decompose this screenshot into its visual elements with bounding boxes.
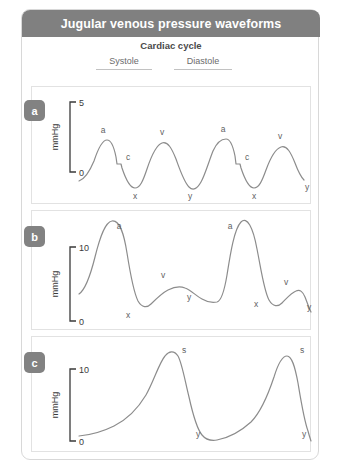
wave-label-a2: a (228, 221, 233, 231)
waveform-panel-c: 10 0 mmHg s y s y (31, 336, 311, 452)
panel-badge-a: a (24, 100, 45, 121)
waveform-chart-b: 10 0 mmHg a x v y a x v y (32, 211, 312, 331)
wave-label-x1: x (133, 191, 138, 201)
y-axis-label-c: mmHg (50, 392, 60, 419)
y-axis-label-b: mmHg (50, 271, 60, 298)
waveform-curve-a (79, 139, 304, 189)
wave-label-a2: a (221, 124, 226, 134)
panel-badge-b: b (24, 226, 45, 247)
y-tick-max-b: 10 (79, 243, 89, 253)
figure-title-bar: Jugular venous pressure waveforms (22, 10, 320, 37)
wave-label-a1: a (117, 221, 122, 231)
wave-label-a1: a (101, 125, 106, 135)
wave-label-y1: y (188, 191, 193, 201)
y-tick-min-a: 0 (79, 168, 84, 178)
cardiac-cycle-header: Cardiac cycle Systole Diastole (22, 40, 320, 84)
phase-label-diastole: Diastole (172, 56, 234, 66)
waveform-panel-a: 5 0 mmHg a c v x y a c v x y (31, 86, 311, 204)
phase-underline-diastole (174, 69, 232, 70)
waveform-curve-c (79, 352, 311, 441)
wave-label-y2: y (307, 302, 312, 312)
wave-label-y1: y (187, 292, 192, 302)
panel-badge-c: c (24, 352, 45, 373)
wave-label-c2: c (245, 152, 250, 162)
y-tick-min-b: 0 (79, 317, 84, 327)
y-axis-label-a: mmHg (50, 124, 60, 151)
phase-label-systole: Systole (94, 56, 154, 66)
page-title: Jugular venous pressure waveforms (61, 17, 282, 31)
waveform-chart-c: 10 0 mmHg s y s y (32, 337, 312, 453)
wave-annotations-c: s y s y (182, 345, 307, 439)
waveform-curve-b (79, 220, 311, 312)
cardiac-cycle-heading: Cardiac cycle (22, 40, 320, 51)
figure-card: Jugular venous pressure waveforms Cardia… (21, 9, 319, 460)
y-axis-b: 10 0 mmHg (50, 243, 89, 327)
wave-label-s1: s (182, 345, 186, 355)
wave-label-v1: v (161, 270, 166, 280)
wave-label-x2: x (252, 191, 257, 201)
y-axis-a: 5 0 mmHg (50, 98, 84, 178)
wave-label-v2: v (278, 131, 283, 141)
wave-label-y1: y (196, 429, 201, 439)
wave-label-s2: s (300, 345, 304, 355)
wave-annotations-a: a c v x y a c v x y (101, 124, 310, 201)
wave-label-v1: v (160, 127, 165, 137)
wave-label-c1: c (126, 152, 131, 162)
wave-label-y2: y (302, 429, 307, 439)
waveform-panel-b: 10 0 mmHg a x v y a x v y (31, 210, 311, 330)
waveform-chart-a: 5 0 mmHg a c v x y a c v x y (32, 87, 312, 205)
y-tick-max-a: 5 (79, 98, 84, 108)
wave-label-x1: x (126, 310, 131, 320)
phase-underline-systole (96, 69, 152, 70)
y-axis-c: 10 0 mmHg (50, 365, 89, 447)
y-tick-min-c: 0 (79, 437, 84, 447)
wave-annotations-b: a x v y a x v y (117, 221, 312, 320)
wave-label-x2: x (254, 299, 259, 309)
wave-label-y2: y (305, 182, 310, 192)
y-tick-max-c: 10 (79, 365, 89, 375)
wave-label-v2: v (284, 277, 289, 287)
